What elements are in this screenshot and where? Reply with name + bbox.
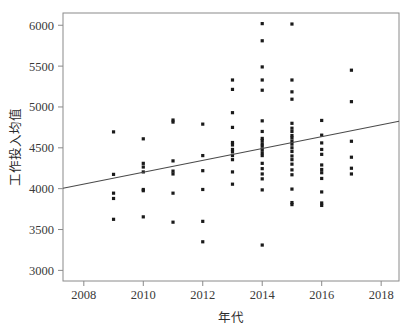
data-point	[320, 163, 323, 166]
x-tick-label: 2012	[190, 288, 215, 302]
data-point	[171, 159, 174, 162]
data-point	[142, 189, 145, 192]
data-point	[231, 78, 234, 81]
data-point	[112, 192, 115, 195]
data-point	[112, 130, 115, 133]
data-point	[290, 203, 293, 206]
data-point	[231, 183, 234, 186]
data-point	[261, 177, 264, 180]
data-point	[231, 88, 234, 91]
data-point	[350, 69, 353, 72]
data-point	[290, 130, 293, 133]
data-point	[261, 162, 264, 165]
data-point	[261, 65, 264, 68]
data-point	[350, 156, 353, 159]
plot-frame-rect	[63, 13, 399, 281]
data-point	[290, 154, 293, 157]
data-point	[201, 169, 204, 172]
data-point	[290, 158, 293, 161]
data-point	[231, 150, 234, 153]
data-point	[290, 122, 293, 125]
data-point	[350, 140, 353, 143]
data-point	[171, 192, 174, 195]
data-point	[261, 139, 264, 142]
data-point	[171, 170, 174, 173]
y-axis-title: 工作投入均值	[8, 108, 23, 186]
data-point	[261, 22, 264, 25]
data-point	[290, 78, 293, 81]
data-point	[320, 190, 323, 193]
data-point	[290, 146, 293, 149]
data-point	[290, 168, 293, 171]
data-point	[231, 170, 234, 173]
data-point	[231, 126, 234, 129]
data-point	[350, 167, 353, 170]
data-point	[350, 172, 353, 175]
x-tick-label: 2014	[250, 288, 276, 302]
data-point	[261, 167, 264, 170]
data-point	[112, 197, 115, 200]
data-point	[290, 150, 293, 153]
data-point	[201, 154, 204, 157]
y-tick-label: 5500	[29, 60, 54, 74]
data-point	[201, 220, 204, 223]
data-point	[350, 100, 353, 103]
scatter-chart: 200820102012201420162018 300035004000450…	[0, 0, 416, 331]
data-point	[261, 188, 264, 191]
data-point	[261, 145, 264, 148]
y-tick-label: 4000	[29, 182, 54, 196]
data-point	[320, 171, 323, 174]
data-point	[290, 98, 293, 101]
y-tick-label: 4500	[29, 141, 54, 155]
data-point	[231, 111, 234, 114]
data-point	[290, 90, 293, 93]
data-point	[261, 78, 264, 81]
data-point	[261, 39, 264, 42]
data-point	[320, 119, 323, 122]
data-point	[261, 119, 264, 122]
data-point	[261, 154, 264, 157]
data-point	[142, 137, 145, 140]
data-point	[231, 158, 234, 161]
data-point	[290, 136, 293, 139]
x-axis-title: 年代	[218, 311, 244, 325]
data-point	[112, 173, 115, 176]
data-point	[261, 243, 264, 246]
data-point	[201, 240, 204, 243]
x-tick-label: 2018	[369, 288, 394, 302]
plot-area: 200820102012201420162018 300035004000450…	[0, 0, 416, 331]
data-point	[290, 127, 293, 130]
x-tick-label: 2008	[71, 288, 96, 302]
data-point	[142, 215, 145, 218]
data-points	[112, 22, 353, 247]
y-tick-label: 6000	[29, 19, 54, 33]
data-point	[171, 120, 174, 123]
data-point	[320, 168, 323, 171]
x-axis-ticks: 200820102012201420162018	[71, 281, 393, 302]
data-point	[171, 221, 174, 224]
y-axis-ticks: 3000350040004500500055006000	[29, 19, 63, 278]
data-point	[261, 89, 264, 92]
data-point	[320, 153, 323, 156]
plot-frame	[63, 13, 399, 281]
data-point	[320, 177, 323, 180]
data-point	[320, 141, 323, 144]
data-point	[231, 143, 234, 146]
y-tick-label: 5000	[29, 100, 54, 114]
data-point	[261, 151, 264, 154]
data-point	[142, 165, 145, 168]
y-tick-label: 3000	[29, 264, 54, 278]
data-point	[290, 22, 293, 25]
data-point	[320, 148, 323, 151]
data-point	[261, 172, 264, 175]
x-tick-label: 2010	[131, 288, 156, 302]
data-point	[171, 172, 174, 175]
data-point	[261, 130, 264, 133]
data-point	[320, 204, 323, 207]
x-tick-label: 2016	[309, 288, 334, 302]
data-point	[201, 188, 204, 191]
y-tick-label: 3500	[29, 223, 54, 237]
data-point	[290, 163, 293, 166]
data-point	[142, 162, 145, 165]
data-point	[290, 173, 293, 176]
